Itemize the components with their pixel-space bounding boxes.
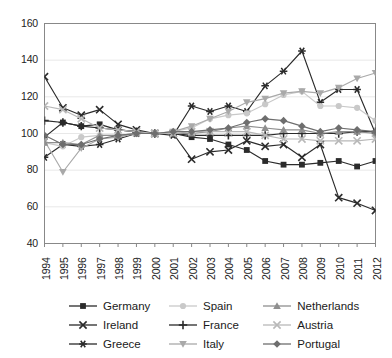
data-point-marker xyxy=(80,303,86,309)
legend-key xyxy=(168,299,198,313)
legend-item-france[interactable]: France xyxy=(168,315,262,334)
legend-label: Spain xyxy=(198,300,232,312)
data-point-marker xyxy=(261,115,269,123)
data-point-marker xyxy=(298,122,306,130)
data-point-marker xyxy=(40,116,48,124)
legend-item-portugal[interactable]: Portugal xyxy=(262,334,368,353)
x-axis-label: 2001 xyxy=(168,257,180,280)
legend-key xyxy=(68,318,98,332)
data-point-marker xyxy=(353,75,361,82)
x-axis-label: 2006 xyxy=(260,257,272,280)
x-axis-label: 2003 xyxy=(205,257,217,280)
data-point-marker xyxy=(243,119,251,127)
circle-marker-icon xyxy=(168,299,198,313)
legend-item-germany[interactable]: Germany xyxy=(68,296,168,315)
legend-label: France xyxy=(198,319,239,331)
x-axis-label: 2000 xyxy=(150,257,162,280)
chart-legend: GermanySpainNetherlandsIrelandFranceAust… xyxy=(68,296,368,353)
data-point-marker xyxy=(336,158,342,164)
legend-label: Italy xyxy=(198,338,224,350)
x-axis-label: 1999 xyxy=(131,257,143,280)
data-point-marker xyxy=(298,154,305,161)
series-layer xyxy=(40,48,379,214)
data-point-marker xyxy=(262,158,268,164)
x-axis-label: 2010 xyxy=(334,257,346,280)
data-point-marker xyxy=(273,340,281,348)
plus-marker-icon xyxy=(168,318,198,332)
legend-row: GreeceItalyPortugal xyxy=(68,334,368,353)
data-point-marker xyxy=(354,200,361,207)
x-axis-label: 2011 xyxy=(352,258,364,280)
data-point-marker xyxy=(77,122,85,130)
legend-row: IrelandFranceAustria xyxy=(68,315,368,334)
x-axis-label: 1994 xyxy=(40,257,52,280)
x-axis-label: 1998 xyxy=(113,257,125,280)
data-point-marker xyxy=(354,164,360,170)
legend-key xyxy=(262,337,292,351)
triangle-down-marker-icon xyxy=(168,337,198,351)
x-light-marker-icon xyxy=(262,318,292,332)
legend-key xyxy=(168,318,198,332)
data-point-marker xyxy=(180,302,186,308)
y-axis-label: 140 xyxy=(12,53,38,65)
data-point-marker xyxy=(78,134,84,140)
data-point-marker xyxy=(372,128,380,136)
legend-label: Austria xyxy=(292,319,333,331)
x-axis-label: 2002 xyxy=(187,257,199,280)
legend-label: Portugal xyxy=(292,338,340,350)
legend-key xyxy=(68,299,98,313)
data-point-marker xyxy=(78,115,85,122)
legend-item-ireland[interactable]: Ireland xyxy=(68,315,168,334)
legend-row: GermanySpainNetherlands xyxy=(68,296,368,315)
data-point-marker xyxy=(179,320,187,328)
x-axis-label: 2012 xyxy=(371,257,383,280)
data-point-marker xyxy=(317,160,323,166)
legend-key xyxy=(168,337,198,351)
x-axis-label: 2008 xyxy=(297,257,309,280)
legend-key xyxy=(262,318,292,332)
legend-key xyxy=(262,299,292,313)
data-point-marker xyxy=(188,156,195,163)
data-point-marker xyxy=(354,105,360,111)
x-marker-icon xyxy=(68,318,98,332)
diamond-marker-icon xyxy=(262,337,292,351)
x-axis-label: 1995 xyxy=(58,257,70,280)
y-axis-label: 60 xyxy=(12,200,38,212)
x-axis-label: 1996 xyxy=(76,257,88,280)
data-point-marker xyxy=(336,103,342,109)
data-point-marker xyxy=(317,103,323,109)
asterisk-marker-icon xyxy=(68,337,98,351)
data-point-marker xyxy=(225,142,231,148)
data-point-marker xyxy=(353,86,361,92)
legend-item-italy[interactable]: Italy xyxy=(168,334,262,353)
data-point-marker xyxy=(59,169,67,176)
legend-item-austria[interactable]: Austria xyxy=(262,315,368,334)
legend-item-spain[interactable]: Spain xyxy=(168,296,262,315)
data-point-marker xyxy=(299,162,305,168)
data-point-marker xyxy=(243,99,251,106)
data-point-marker xyxy=(373,158,379,164)
legend-item-netherlands[interactable]: Netherlands xyxy=(262,296,368,315)
x-axis-label: 2004 xyxy=(223,257,235,280)
data-point-marker xyxy=(244,147,250,153)
y-axis-label: 160 xyxy=(12,17,38,29)
data-point-marker xyxy=(79,340,87,346)
legend-key xyxy=(68,337,98,351)
data-point-marker xyxy=(317,141,324,148)
data-point-marker xyxy=(280,117,288,125)
legend-label: Greece xyxy=(98,338,141,350)
square-marker-icon xyxy=(68,299,98,313)
y-axis-label: 120 xyxy=(12,90,38,102)
x-axis-label: 2005 xyxy=(242,257,254,280)
data-point-marker xyxy=(206,108,214,114)
x-axis-label: 2007 xyxy=(279,257,291,280)
data-point-marker xyxy=(335,124,343,132)
legend-item-greece[interactable]: Greece xyxy=(68,334,168,353)
series-italy xyxy=(41,70,380,176)
y-axis-label: 80 xyxy=(12,163,38,175)
data-point-marker xyxy=(96,106,103,113)
legend-label: Germany xyxy=(98,300,150,312)
y-axis-label: 100 xyxy=(12,127,38,139)
data-point-marker xyxy=(281,162,287,168)
data-point-marker xyxy=(244,110,250,116)
